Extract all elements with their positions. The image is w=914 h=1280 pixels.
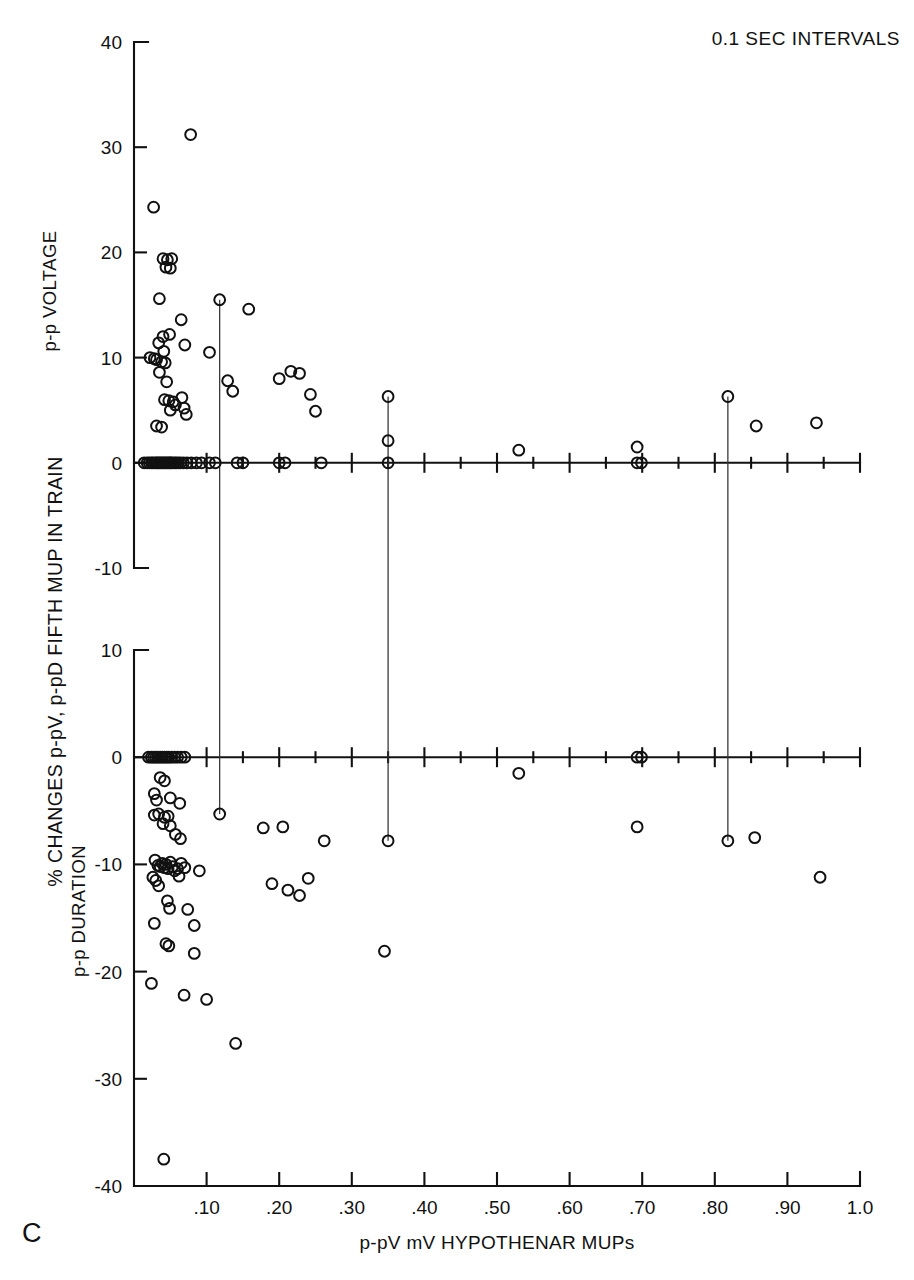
data-point: [158, 1154, 169, 1165]
data-point: [182, 904, 193, 915]
data-point: [310, 406, 321, 417]
x-tick-label: .30: [339, 1197, 365, 1218]
data-point: [379, 946, 390, 957]
data-point: [204, 347, 215, 358]
data-point: [151, 795, 162, 806]
y-tick-label: 0: [111, 747, 122, 768]
scatter-plot: -10010203040-40-30-20-10010.10.20.30.40.…: [0, 0, 914, 1280]
y-tick-label: -10: [95, 558, 122, 579]
data-point: [294, 890, 305, 901]
data-point: [174, 798, 185, 809]
data-point: [227, 386, 238, 397]
data-point: [230, 1038, 241, 1049]
x-tick-label: .90: [774, 1197, 800, 1218]
x-tick-label: .80: [702, 1197, 728, 1218]
data-point: [751, 421, 762, 432]
data-point: [267, 878, 278, 889]
data-point: [303, 873, 314, 884]
x-tick-label: .70: [629, 1197, 655, 1218]
data-point: [815, 872, 826, 883]
data-point: [177, 392, 188, 403]
data-point: [277, 821, 288, 832]
data-point: [319, 835, 330, 846]
data-point: [148, 202, 159, 213]
data-point: [179, 340, 190, 351]
data-point: [149, 788, 160, 799]
y-tick-label: -40: [95, 1176, 122, 1197]
y-tick-label: 40: [101, 32, 122, 53]
data-point: [154, 293, 165, 304]
data-point: [222, 375, 233, 386]
data-point: [201, 994, 212, 1005]
figure-page: 0.1 SEC INTERVALS % CHANGES p-pV, p-pD F…: [0, 0, 914, 1280]
x-tick-label: .60: [556, 1197, 582, 1218]
data-point: [749, 832, 760, 843]
data-point: [185, 129, 196, 140]
y-tick-label: -20: [95, 962, 122, 983]
data-point: [163, 940, 174, 951]
data-point: [258, 823, 269, 834]
data-point: [305, 389, 316, 400]
panel-frame-0: [134, 42, 148, 568]
x-tick-label: .10: [193, 1197, 219, 1218]
data-point: [513, 768, 524, 779]
x-tick-label: .40: [411, 1197, 437, 1218]
data-point: [146, 978, 157, 989]
data-point: [274, 373, 285, 384]
y-tick-label: 10: [101, 348, 122, 369]
y-tick-label: -10: [95, 854, 122, 875]
x-tick-label: 1.0: [847, 1197, 873, 1218]
x-tick-label: .50: [484, 1197, 510, 1218]
x-tick-label: .20: [266, 1197, 292, 1218]
data-point: [632, 821, 643, 832]
panel-frame-1: [134, 650, 148, 1186]
data-point: [176, 314, 187, 325]
data-point: [179, 990, 190, 1001]
data-point: [194, 865, 205, 876]
data-point: [181, 409, 192, 420]
data-point: [189, 920, 200, 931]
data-point: [189, 948, 200, 959]
data-point: [161, 376, 172, 387]
data-point: [149, 918, 160, 929]
y-tick-label: 20: [101, 242, 122, 263]
data-point: [283, 885, 294, 896]
data-point: [243, 304, 254, 315]
y-tick-label: 0: [111, 453, 122, 474]
y-tick-label: 10: [101, 640, 122, 661]
y-tick-label: 30: [101, 137, 122, 158]
data-point: [513, 445, 524, 456]
data-point: [154, 367, 165, 378]
data-point: [164, 329, 175, 340]
y-tick-label: -30: [95, 1069, 122, 1090]
data-point: [811, 417, 822, 428]
data-point: [164, 903, 175, 914]
data-point: [162, 895, 173, 906]
data-point: [632, 442, 643, 453]
